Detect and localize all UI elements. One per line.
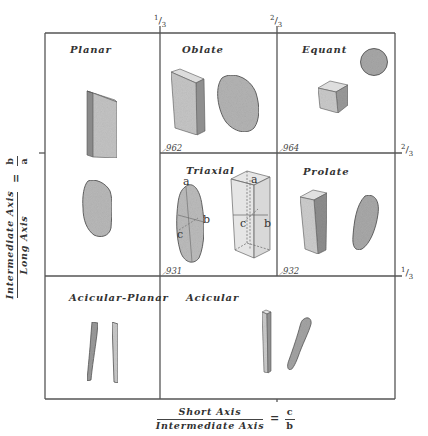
top-tick-one-third: 1/3 [154, 14, 166, 29]
prolate-elongated-pebble-icon [353, 195, 379, 249]
classification-grid: a b c a b c [0, 0, 428, 436]
oblate-oval-pebble-icon [218, 75, 259, 132]
y-axis-label: Intermediate Axis Long Axis = b a [4, 100, 38, 300]
planar-flat-pebble-icon [83, 180, 112, 236]
acicular-curved-rod-icon [288, 318, 312, 370]
cell-code-triaxial: ⸝931 [162, 265, 182, 276]
triaxial-prism-axis-c: c [240, 217, 246, 230]
triaxial-ellipsoid-axis-b: b [203, 213, 210, 226]
cell-code-equant: ⸝964 [279, 142, 299, 153]
cell-label-acicular: Acicular [186, 292, 239, 303]
y-axis-denominator: Long Axis [18, 190, 29, 300]
x-axis-label: Short Axis Intermediate Axis = c b [155, 406, 345, 434]
y-axis-ratio-den: a [18, 156, 29, 166]
cell-code-oblate: ⸝962 [162, 142, 182, 153]
y-axis-ratio-num: b [4, 156, 15, 166]
cell-label-planar: Planar [70, 44, 112, 55]
triaxial-ellipsoid-icon: a b c [177, 175, 210, 262]
x-axis-equals: = [269, 412, 281, 425]
cell-code-prolate: ⸝932 [279, 265, 299, 276]
y-axis-numerator: Intermediate Axis [4, 190, 15, 300]
cell-label-prolate: Prolate [303, 166, 349, 177]
triaxial-ellipsoid-axis-c: c [177, 228, 183, 241]
triaxial-prism-axis-b: b [264, 217, 271, 230]
x-axis-ratio-den: b [285, 420, 295, 431]
x-axis-denominator: Intermediate Axis [155, 420, 265, 431]
y-axis-equals: = [10, 172, 23, 184]
planar-thin-plate-icon [87, 91, 117, 158]
triaxial-prism-axis-a: a [251, 173, 258, 186]
prolate-elongated-prism-icon [300, 190, 327, 254]
cell-label-triaxial: Triaxial [186, 165, 235, 176]
x-axis-numerator: Short Axis [155, 406, 265, 417]
equant-cube-icon [318, 81, 348, 113]
top-tick-two-thirds: 2/3 [270, 14, 282, 29]
acicular-planar-flat-needle-icon [112, 322, 118, 383]
acicular-planar-curved-needle-icon [87, 322, 98, 381]
acicular-straight-rod-icon [262, 310, 271, 373]
right-tick-one-third: 1/3 [401, 266, 413, 281]
triaxial-ellipsoid-axis-a: a [183, 175, 190, 188]
right-tick-two-thirds: 2/3 [401, 143, 413, 158]
equant-sphere-icon [361, 49, 388, 76]
x-axis-ratio-num: c [285, 406, 295, 417]
cell-label-oblate: Oblate [182, 44, 224, 55]
cell-label-equant: Equant [302, 44, 347, 55]
oblate-thick-plate-icon [171, 69, 205, 135]
cell-label-acicular-planar: Acicular-Planar [69, 292, 169, 303]
